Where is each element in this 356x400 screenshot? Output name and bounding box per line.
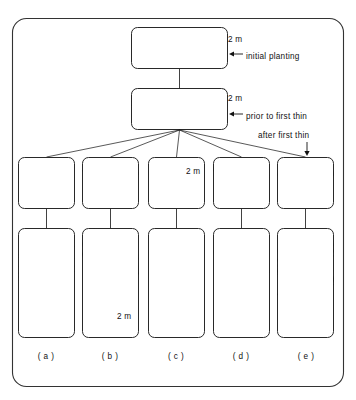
middle-panel-a	[18, 158, 74, 209]
bottom-panel-a-border	[19, 229, 75, 338]
middle-panel-d	[212, 158, 271, 209]
bottom-panel-d-border	[214, 229, 270, 338]
middle-panel-a-border	[19, 158, 75, 209]
panel-letter-c: ( c )	[160, 352, 192, 361]
panel-letter-b: ( b )	[94, 352, 126, 361]
stage-initial-planting	[132, 28, 228, 69]
bottom-panel-c-border	[149, 229, 205, 338]
height-label-bottom-b: 2 m	[117, 313, 131, 321]
middle-panel-c-border	[149, 158, 205, 209]
stage-prior-to-first-thin-border	[132, 89, 228, 130]
annotation-initial-planting: initial planting	[246, 53, 300, 61]
bottom-panel-a	[15, 229, 76, 338]
annotation-after-first-thin: after first thin	[258, 132, 309, 140]
stage-initial-planting-border	[132, 28, 228, 69]
panel-letter-e: ( e )	[290, 352, 322, 361]
stage-prior-to-first-thin	[130, 88, 227, 129]
bottom-panel-c	[149, 229, 205, 338]
middle-panel-b	[81, 158, 142, 209]
figure-canvas: 2 minitial planting2 mprior to first thi…	[0, 0, 356, 400]
height-label-middle-c: 2 m	[186, 168, 200, 176]
panel-letter-d: ( d )	[225, 352, 257, 361]
annotation-prior-first-thin: prior to first thin	[246, 113, 307, 121]
middle-panel-c	[149, 158, 205, 209]
height-label-prior: 2 m	[228, 95, 242, 103]
bottom-panel-e-border	[278, 229, 334, 338]
height-label-initial: 2 m	[228, 36, 242, 44]
thinning-diagram-svg	[0, 0, 356, 400]
middle-panel-d-border	[214, 158, 270, 209]
middle-panel-e-border	[278, 158, 334, 209]
middle-panel-b-border	[83, 158, 139, 209]
panel-letter-a: ( a )	[30, 352, 62, 361]
middle-panel-e	[272, 158, 335, 209]
